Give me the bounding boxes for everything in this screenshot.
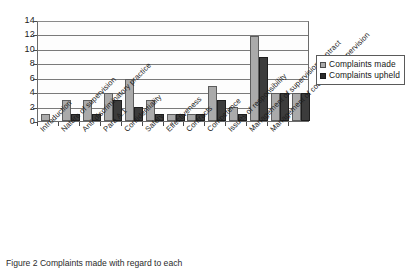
bar-complaints-upheld [259, 57, 268, 121]
bar-complaints-made [146, 100, 155, 121]
figure-caption: Figure 2 Complaints made with regard to … [6, 258, 182, 268]
y-axis-tick-label: 10 [9, 45, 35, 54]
x-axis-tick-mark [225, 122, 226, 126]
x-axis-tick-mark [204, 122, 205, 126]
bar-complaints-upheld [196, 114, 205, 121]
x-axis-tick-mark [37, 122, 38, 126]
bar-complaints-made [83, 100, 92, 121]
bar-complaints-made [104, 93, 113, 121]
bar-complaints-made [292, 93, 301, 121]
bar-group [205, 22, 226, 121]
x-axis-tick-mark [163, 122, 164, 126]
x-axis-tick-mark [288, 122, 289, 126]
y-axis-tick-label: 2 [9, 103, 35, 112]
x-axis-tick-mark [183, 122, 184, 126]
bar-complaints-upheld [155, 114, 164, 121]
bar-group [59, 22, 80, 121]
y-axis-tick-label: 4 [9, 88, 35, 97]
bar-complaints-upheld [238, 114, 247, 121]
x-axis-tick-mark [100, 122, 101, 126]
bar-complaints-made [250, 36, 259, 121]
bar-complaints-made [208, 86, 217, 121]
legend-swatch-complaints-upheld [320, 73, 326, 79]
y-axis-tick-label: 14 [9, 16, 35, 25]
legend-label-complaints-upheld: Complaints upheld [329, 71, 400, 80]
bar-complaints-made [229, 107, 238, 121]
bar-complaints-upheld [92, 114, 101, 121]
x-axis-tick-mark [246, 122, 247, 126]
legend-swatch-complaints-made [320, 62, 326, 68]
bar-group [184, 22, 205, 121]
bar-complaints-made [125, 79, 134, 121]
bar-complaints-upheld [134, 107, 143, 121]
bar-group [247, 22, 268, 121]
bar-complaints-upheld [113, 100, 122, 121]
x-axis-tick-mark [267, 122, 268, 126]
x-axis-tick-mark [58, 122, 59, 126]
bar-group [226, 22, 247, 121]
bar-complaints-made [167, 114, 176, 121]
legend-label-complaints-made: Complaints made [329, 60, 396, 69]
bar-complaints-upheld [176, 114, 185, 121]
y-axis-tick-label: 0 [9, 117, 35, 126]
x-axis-tick-mark [79, 122, 80, 126]
bar-complaints-made [41, 114, 50, 121]
x-axis-tick-mark [142, 122, 143, 126]
x-axis-tick-mark [121, 122, 122, 126]
y-axis-tick-label: 6 [9, 74, 35, 83]
bar-complaints-upheld [71, 114, 80, 121]
bar-complaints-upheld [217, 100, 226, 121]
bar-complaints-made [62, 100, 71, 121]
bar-group [268, 22, 289, 121]
bar-group [164, 22, 185, 121]
bar-group [289, 22, 310, 121]
y-axis-tick-label: 8 [9, 59, 35, 68]
bar-group [143, 22, 164, 121]
legend-item: Complaints made [320, 59, 400, 70]
bar-series-container [38, 22, 308, 121]
y-axis-tick-label: 12 [9, 30, 35, 39]
y-axis-tick-mark [33, 122, 37, 123]
chart-legend: Complaints made Complaints upheld [316, 55, 405, 85]
legend-item: Complaints upheld [320, 70, 400, 81]
bar-complaints-made [187, 114, 196, 121]
bar-group [38, 22, 59, 121]
bar-group [101, 22, 122, 121]
bar-group [80, 22, 101, 121]
figure-chart: 02468101214 IntroductionNature of superv… [0, 0, 417, 269]
bar-group [122, 22, 143, 121]
bar-complaints-made [271, 93, 280, 121]
bar-complaints-upheld [301, 93, 310, 121]
bar-complaints-upheld [280, 93, 289, 121]
